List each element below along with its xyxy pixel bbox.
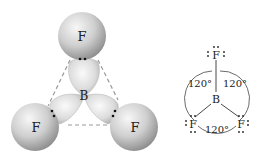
atom-label-left: F — [31, 120, 40, 135]
atom-label-center: B — [80, 89, 89, 103]
lewis-atom-right: F — [237, 118, 245, 131]
lewis-atom-top: F — [212, 49, 220, 62]
angle-label-upper-right: 120° — [223, 78, 247, 89]
lewis-structure: F B F F 120° 120° 120° — [185, 46, 250, 135]
lewis-atom-left: F — [189, 118, 197, 131]
angle-label-upper-left: 120° — [188, 78, 212, 89]
angle-label-bottom: 120° — [205, 124, 229, 135]
atom-label-right: F — [130, 120, 139, 135]
bf3-diagram: F F F B F B F F — [0, 0, 269, 152]
orbital-model: F F F B — [11, 12, 158, 151]
atom-label-top: F — [77, 29, 86, 44]
lewis-atom-center: B — [212, 93, 220, 106]
